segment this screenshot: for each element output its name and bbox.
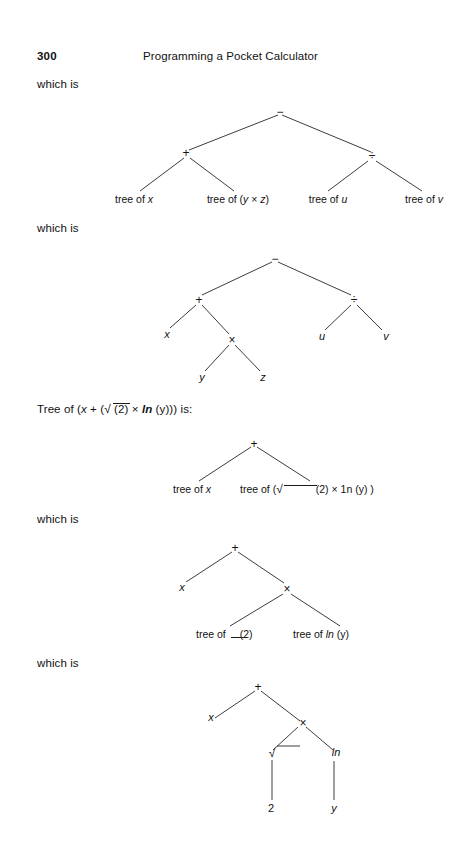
node-times: × bbox=[283, 584, 290, 595]
node-plus: + bbox=[182, 148, 189, 159]
leaf-u: u bbox=[319, 331, 325, 342]
leaf-y: y bbox=[331, 803, 337, 814]
node-ln: ln bbox=[332, 747, 341, 758]
expr-ln: ln bbox=[142, 403, 152, 415]
node-plus: + bbox=[250, 439, 257, 450]
leaf-v: v bbox=[383, 331, 389, 342]
node-plus: + bbox=[195, 295, 202, 306]
expr-plus: + ( bbox=[87, 403, 104, 415]
tree-edges bbox=[0, 0, 472, 865]
expr-mid: (2) × bbox=[111, 403, 142, 415]
node-minus: − bbox=[271, 254, 278, 265]
leaf-x: x bbox=[208, 712, 214, 723]
caption-tree-of-expression: Tree of (x + (√ (2) × ln (y))) is: bbox=[37, 402, 192, 416]
sqrt-icon: √ bbox=[276, 484, 283, 495]
node-sqrt-icon: √ bbox=[269, 748, 276, 759]
leaf-x: x bbox=[179, 582, 185, 593]
leaf-tree-of-x: tree of x bbox=[115, 194, 153, 205]
node-times: × bbox=[228, 335, 235, 346]
leaf-tree-of-y-times-z: tree of (y × z) bbox=[207, 194, 269, 205]
node-times: × bbox=[299, 718, 306, 729]
node-plus: + bbox=[254, 682, 261, 693]
node-plus: + bbox=[231, 543, 238, 554]
caption-which-is-3: which is bbox=[37, 513, 79, 525]
expr-prefix: Tree of ( bbox=[37, 403, 81, 415]
caption-which-is-4: which is bbox=[37, 657, 79, 669]
leaf-y: y bbox=[199, 372, 205, 383]
node-divide: ÷ bbox=[369, 151, 376, 162]
node-divide: ÷ bbox=[351, 295, 358, 306]
leaf-tree-of-ln-y: tree of ln (y) bbox=[293, 629, 349, 640]
sqrt-icon: √ bbox=[104, 402, 111, 416]
expr-tail: (y))) is: bbox=[152, 403, 192, 415]
leaf-tree-of-sqrt-2: tree of(2) bbox=[196, 629, 253, 640]
page-number: 300 bbox=[37, 50, 57, 62]
running-title: Programming a Pocket Calculator bbox=[143, 50, 318, 62]
leaf-z: z bbox=[260, 372, 266, 383]
leaf-tree-of-x: tree of x bbox=[173, 484, 211, 495]
leaf-tree-of-sqrt2-times-ln-y: tree of (√(2) × 1n (y) ) bbox=[240, 484, 374, 495]
node-minus: − bbox=[276, 107, 283, 118]
leaf-2: 2 bbox=[268, 803, 274, 814]
document-page: 300 Programming a Pocket Calculator whic… bbox=[0, 0, 472, 865]
caption-which-is-1: which is bbox=[37, 78, 79, 90]
leaf-tree-of-v: tree of v bbox=[405, 194, 443, 205]
caption-which-is-2: which is bbox=[37, 222, 79, 234]
leaf-tree-of-u: tree of u bbox=[309, 194, 348, 205]
leaf-x: x bbox=[164, 329, 170, 340]
